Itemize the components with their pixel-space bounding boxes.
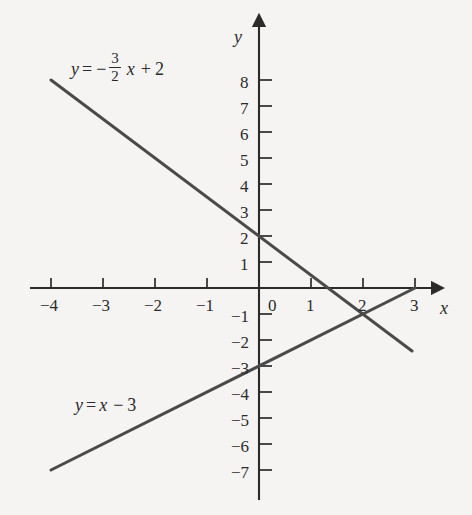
y-tick-label--1: −1 [231,308,249,325]
y-axis-ticks [259,80,272,470]
x-tick-label-1: 1 [306,297,315,314]
y-axis-label: y [234,28,242,46]
equation-1-constant: 2 [155,60,164,78]
equation-1-equals: = [80,60,94,78]
equation-1-plus: + [139,60,153,78]
equation-1-numerator: 3 [109,51,121,67]
y-tick-label--4: −4 [231,386,249,403]
y-tick-label-5: 5 [240,152,249,169]
y-tick-label-4: 4 [240,178,249,195]
equation-2-lhs: y [74,396,84,414]
equation-label-line-2: y = x − 3 [74,396,136,414]
y-tick-label-6: 6 [240,126,249,143]
y-tick-label--6: −6 [231,438,249,455]
equation-label-line-1: y = − 3 2 x + 2 [70,52,164,86]
y-tick-label-2: 2 [240,230,249,247]
y-tick-label--3: −3 [231,360,249,377]
equation-2-equals: = [84,396,98,414]
x-tick-label-2: 2 [358,297,367,314]
y-tick-label-7: 7 [240,100,249,117]
y-tick-label-8: 8 [240,74,249,91]
equation-1-minus: − [94,60,108,78]
x-tick-label--1: −1 [196,297,214,314]
equation-1-denominator: 2 [109,67,121,84]
equation-2-constant: 3 [127,396,136,414]
y-tick-label-1: 1 [240,256,249,273]
y-tick-label--5: −5 [231,412,249,429]
y-tick-label-3: 3 [240,204,249,221]
graph-figure: y x −4 −3 −2 −1 0 1 2 3 1 2 3 4 5 6 7 8 … [0,0,472,515]
equation-1-lhs: y [70,60,80,78]
x-axis-label: x [440,299,448,317]
x-tick-label-0: 0 [268,297,277,314]
y-tick-label--2: −2 [231,334,249,351]
equation-1-fraction: 3 2 [109,51,121,85]
equation-1-variable: x [126,60,136,78]
x-tick-label--3: −3 [92,297,110,314]
x-tick-label--2: −2 [144,297,162,314]
equation-2-variable: x [98,396,108,414]
y-tick-label--7: −7 [231,464,249,481]
equation-2-minus: − [111,396,125,414]
x-axis-ticks [51,278,415,288]
x-tick-label-3: 3 [410,297,419,314]
x-tick-label--4: −4 [40,297,58,314]
